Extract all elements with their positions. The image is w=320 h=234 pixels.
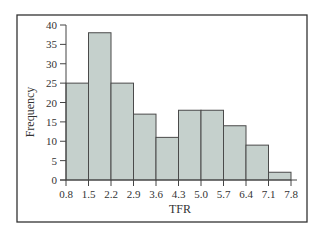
y-tick-label: 25 <box>46 77 58 89</box>
x-tick-label: 1.5 <box>82 188 96 200</box>
x-tick-label: 4.3 <box>172 188 186 200</box>
y-tick-label: 0 <box>52 174 58 186</box>
x-tick-label: 5.7 <box>217 188 231 200</box>
histogram-bar <box>269 172 292 180</box>
y-tick-label: 5 <box>52 155 58 167</box>
x-tick-label: 7.1 <box>262 188 276 200</box>
histogram-bar <box>246 145 269 180</box>
x-tick-label: 0.8 <box>59 188 73 200</box>
y-tick-label: 30 <box>46 58 58 70</box>
histogram-bar <box>224 126 247 180</box>
histogram-bar <box>201 110 224 180</box>
histogram-bar <box>156 137 179 180</box>
x-axis-label: TFR <box>169 202 191 216</box>
histogram-chart: 0510152025303540 0.81.52.22.93.64.35.05.… <box>0 0 320 234</box>
x-tick-label: 3.6 <box>149 188 163 200</box>
y-tick-label: 40 <box>46 19 58 31</box>
y-tick-label: 15 <box>46 116 58 128</box>
x-tick-label: 7.8 <box>284 188 298 200</box>
y-tick-label: 10 <box>46 135 58 147</box>
histogram-bar <box>66 83 89 180</box>
x-tick-label: 2.9 <box>127 188 141 200</box>
histogram-bars <box>66 33 291 180</box>
y-axis: 0510152025303540 <box>46 19 66 186</box>
histogram-bar <box>134 114 157 180</box>
x-tick-label: 5.0 <box>194 188 208 200</box>
histogram-bar <box>111 83 134 180</box>
y-tick-label: 35 <box>46 38 58 50</box>
y-axis-label: Frequency <box>23 87 37 138</box>
x-tick-label: 6.4 <box>239 188 253 200</box>
histogram-bar <box>89 33 112 180</box>
histogram-bar <box>179 110 202 180</box>
y-tick-label: 20 <box>46 97 58 109</box>
x-tick-label: 2.2 <box>104 188 118 200</box>
x-axis: 0.81.52.22.93.64.35.05.76.47.17.8 <box>59 180 298 200</box>
